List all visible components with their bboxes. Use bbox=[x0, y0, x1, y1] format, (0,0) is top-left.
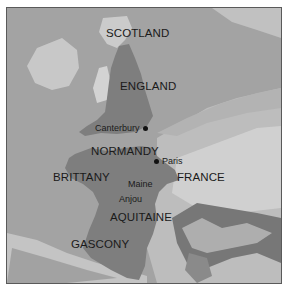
label-paris: Paris bbox=[162, 157, 183, 166]
label-england: ENGLAND bbox=[120, 81, 176, 93]
label-maine: Maine bbox=[128, 180, 153, 189]
canterbury-marker-icon bbox=[143, 126, 148, 131]
label-anjou: Anjou bbox=[119, 195, 142, 204]
label-france: FRANCE bbox=[177, 172, 225, 184]
map-frame: SCOTLAND ENGLAND NORMANDY BRITTANY FRANC… bbox=[6, 7, 282, 284]
label-normandy: NORMANDY bbox=[91, 146, 159, 158]
label-brittany: BRITTANY bbox=[53, 172, 110, 184]
label-aquitaine: AQUITAINE bbox=[110, 212, 172, 224]
paris-marker-icon bbox=[154, 159, 159, 164]
label-gascony: GASCONY bbox=[71, 239, 129, 251]
label-scotland: SCOTLAND bbox=[106, 28, 169, 40]
label-canterbury: Canterbury bbox=[95, 124, 140, 133]
